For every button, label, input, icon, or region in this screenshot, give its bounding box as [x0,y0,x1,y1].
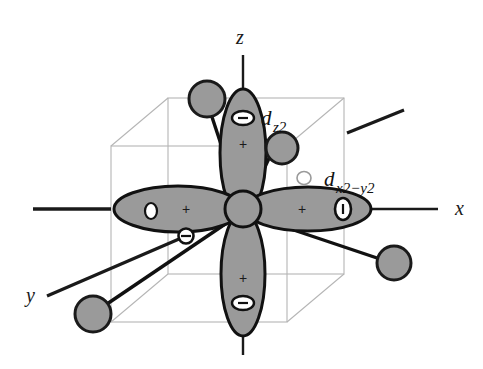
dx2-y2-right-node-marker [335,198,351,220]
dz2-upper-plus-sign: + [239,136,247,152]
y-axis-label: y [24,284,35,307]
dx2-y2-label-sub: x2−y2 [335,180,375,196]
dz2-lower-node-marker [232,296,254,310]
ligand-lower-left [75,296,111,332]
dz2-label-main: d [261,106,272,130]
ligand-lower-right [377,246,411,280]
cube-edge-tl [111,98,168,146]
cube-edge-br [287,274,344,322]
dz2-upper-node-marker [232,111,254,125]
figure-root: + + + + [0,0,483,369]
dx2-y2-label-main: d [324,167,335,191]
dx2-y2-left-plus-sign: + [182,201,190,217]
x-axis-label: x [454,197,464,219]
ligand-upper-left [189,81,225,117]
dx2-y2-left-node-marker [145,203,157,219]
z-axis-label: z [235,26,244,48]
bond-node-front [179,229,194,244]
central-metal-atom [225,191,261,227]
dx2-y2-right-plus-sign: + [298,201,306,217]
dx2-y2-left-lobe [114,186,242,232]
orbital-diagram: + + + + [0,0,483,369]
dz2-lower-plus-sign: + [239,270,247,286]
ligand-upper-right [266,132,298,164]
bond-node-back [297,172,311,185]
dz2-label-sub: z2 [272,119,287,135]
y-axis-line-back [347,110,404,133]
